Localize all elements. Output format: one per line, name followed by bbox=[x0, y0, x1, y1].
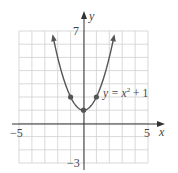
data-point bbox=[68, 94, 73, 99]
x-min-label: −5 bbox=[10, 126, 23, 140]
curve-arrow-left-icon bbox=[51, 34, 56, 41]
data-point bbox=[81, 108, 86, 113]
curve-arrow-right-icon bbox=[110, 34, 115, 41]
y-axis-label: y bbox=[88, 9, 95, 23]
equation-y: y = x bbox=[102, 87, 128, 100]
data-point bbox=[94, 94, 99, 99]
y-min-label: −3 bbox=[67, 156, 80, 170]
x-axis-label: x bbox=[158, 125, 165, 139]
parabola-chart: y x 7 −3 −5 5 y = x2 + 1 bbox=[0, 0, 178, 173]
equation-label: y = x2 + 1 bbox=[102, 86, 148, 100]
equation-tail: + 1 bbox=[130, 87, 148, 99]
y-axis-arrow-icon bbox=[81, 11, 87, 19]
y-max-label: 7 bbox=[73, 24, 79, 38]
x-max-label: 5 bbox=[144, 126, 150, 140]
